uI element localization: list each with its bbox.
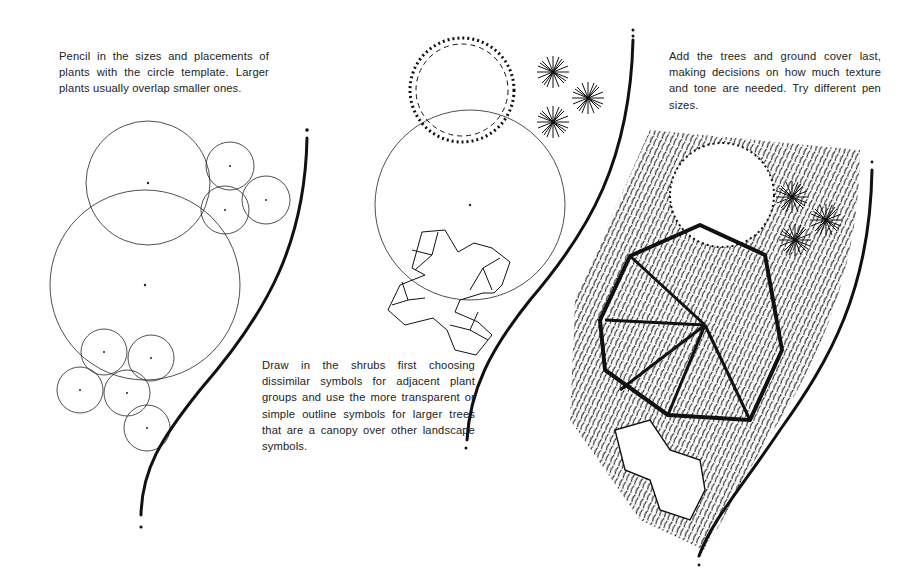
planting-plan-diagrams [0, 0, 917, 587]
angular-shrub-group [388, 230, 510, 355]
path-edge-line-1 [139, 128, 308, 528]
starburst-shrubs [537, 56, 604, 138]
scalloped-shrub [410, 38, 514, 142]
panel-2-shrub-symbols [375, 38, 604, 355]
panel-3-final-plan [570, 130, 860, 550]
panel-1-circle-template [50, 121, 290, 451]
